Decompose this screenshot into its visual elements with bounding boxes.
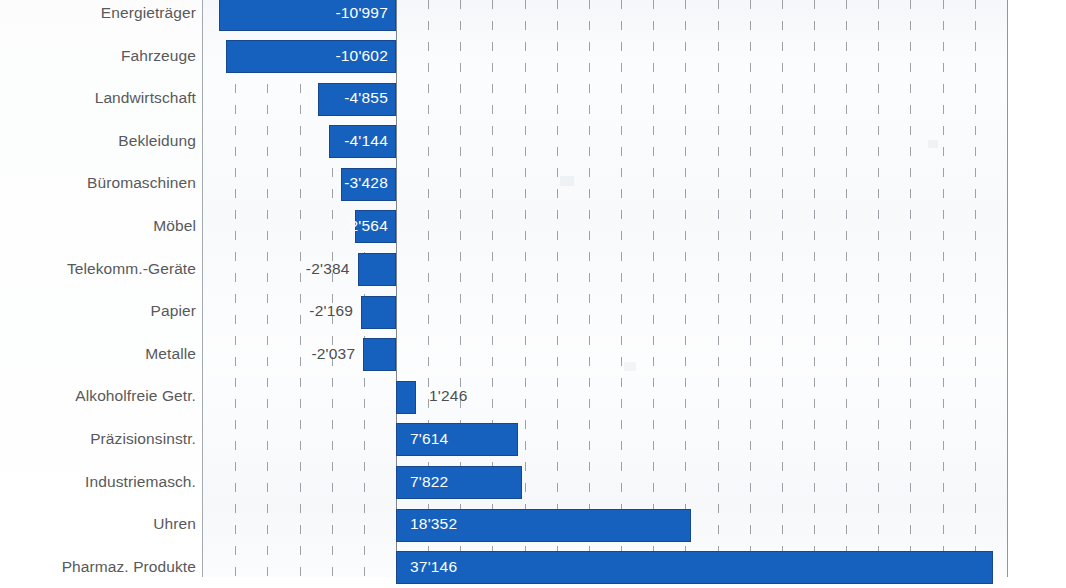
bar-value-label: -3'428 — [344, 174, 388, 192]
bar-value-label: 1'246 — [429, 387, 467, 405]
category-label: Pharmaz. Produkte — [62, 558, 196, 576]
category-label: Uhren — [153, 515, 196, 533]
bar-row: Uhren18'352 — [0, 504, 1066, 547]
bar-value-label: 18'352 — [410, 515, 457, 533]
category-label: Papier — [151, 302, 196, 320]
category-label: Metalle — [145, 345, 196, 363]
bar-value-label: -4'144 — [344, 132, 388, 150]
category-label: Fahrzeuge — [121, 47, 196, 65]
bar-value-label: 7'822 — [410, 473, 448, 491]
bar-row: Pharmaz. Produkte37'146 — [0, 547, 1066, 588]
bar-row: Energieträger-10'997 — [0, 0, 1066, 35]
bar[interactable] — [396, 381, 416, 414]
bar-value-label: -4'855 — [344, 89, 388, 107]
bar[interactable] — [396, 551, 993, 584]
bar-value-label: -10'997 — [335, 4, 388, 22]
bar-row: Telekomm.-Geräte-2'384 — [0, 248, 1066, 291]
bar-row: Alkoholfreie Getr.1'246 — [0, 376, 1066, 419]
category-label: Industriemasch. — [85, 473, 196, 491]
bar-value-label: -2'169 — [309, 302, 353, 320]
bar[interactable] — [358, 253, 396, 286]
bar-row: Büromaschinen-3'428 — [0, 163, 1066, 206]
category-label: Telekomm.-Geräte — [67, 260, 196, 278]
bar-row: Industriemasch.7'822 — [0, 461, 1066, 504]
bar[interactable] — [361, 296, 396, 329]
category-label: Bekleidung — [118, 132, 196, 150]
bar[interactable] — [363, 338, 396, 371]
bar-value-label: -2'384 — [306, 260, 350, 278]
bar-row: Möbel2'564 — [0, 206, 1066, 249]
bar-value-label: 7'614 — [410, 430, 448, 448]
bar-value-label: -10'602 — [335, 47, 388, 65]
bar-row: Metalle-2'037 — [0, 334, 1066, 377]
category-label: Landwirtschaft — [95, 89, 196, 107]
category-label: Alkoholfreie Getr. — [75, 387, 196, 405]
category-label: Büromaschinen — [87, 174, 196, 192]
bar-row: Präzisionsinstr.7'614 — [0, 419, 1066, 462]
category-label: Präzisionsinstr. — [90, 430, 196, 448]
bar-row: Papier-2'169 — [0, 291, 1066, 334]
category-label: Energieträger — [101, 4, 196, 22]
bar-value-label: 37'146 — [410, 558, 457, 576]
bar-row: Bekleidung-4'144 — [0, 121, 1066, 164]
bar-value-label: 2'564 — [350, 217, 388, 235]
bar-value-label: -2'037 — [311, 345, 355, 363]
bar-row: Landwirtschaft-4'855 — [0, 78, 1066, 121]
bar-row: Fahrzeuge-10'602 — [0, 35, 1066, 78]
category-label: Möbel — [153, 217, 196, 235]
